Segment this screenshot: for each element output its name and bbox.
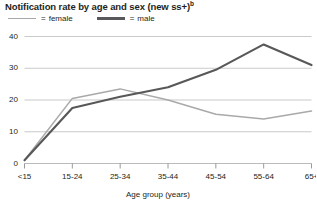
y-tick-label-0: 0	[2, 160, 18, 168]
x-tick-label-1: 15-24	[49, 173, 95, 181]
x-tick-label-5: 55-64	[241, 173, 287, 181]
x-tick-label-3: 35-44	[145, 173, 191, 181]
x-tick-label-0: <15	[2, 173, 48, 181]
plot-area: 010203040<1515-2425-3435-4445-5455-6465+	[0, 0, 316, 208]
x-axis-title: Age group (years)	[0, 190, 316, 199]
x-tick-label-6: 65+	[289, 173, 317, 181]
chart-figure: Notification rate by age and sex (new ss…	[0, 0, 316, 208]
y-tick-label-10: 10	[2, 128, 18, 136]
y-tick-label-40: 40	[2, 33, 18, 41]
y-tick-label-30: 30	[2, 64, 18, 72]
x-tick-label-4: 45-54	[193, 173, 239, 181]
x-tick-label-2: 25-34	[97, 173, 143, 181]
series-line-female	[25, 89, 312, 160]
series-line-male	[25, 44, 312, 160]
y-tick-label-20: 20	[2, 96, 18, 104]
